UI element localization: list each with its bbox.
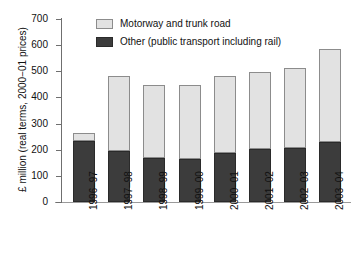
x-axis-tick-label: 1999‒00	[195, 171, 205, 210]
bar-segment-motorway-and-trunk-road	[73, 133, 95, 141]
y-axis-tick	[56, 45, 62, 46]
dark-gray-swatch-icon	[96, 37, 113, 47]
x-axis-tick-label: 2001‒02	[265, 171, 275, 210]
y-axis-tick-label: 0	[14, 197, 48, 207]
y-axis-tick-label: 400	[14, 92, 48, 102]
x-axis-tick-label: 1998‒99	[159, 171, 169, 210]
y-axis-tick	[56, 124, 62, 125]
y-axis-tick	[56, 150, 62, 151]
light-gray-swatch-icon	[96, 19, 113, 29]
bar-segment-motorway-and-trunk-road	[249, 72, 271, 149]
x-axis-tick-label: 2002‒03	[300, 171, 310, 210]
legend-item-other-public-transport-including-rail: Other (public transport including rail)	[96, 34, 281, 49]
bar-segment-motorway-and-trunk-road	[143, 85, 165, 158]
y-axis-tick	[56, 19, 62, 20]
stacked-bar-chart: £ million (real terms, 2000−01 prices) 0…	[0, 0, 356, 274]
x-axis-tick-label: 2000‒01	[230, 171, 240, 210]
bar-segment-motorway-and-trunk-road	[319, 49, 341, 142]
x-axis-tick-label: 1997‒98	[124, 171, 134, 210]
y-axis-tick-label: 100	[14, 171, 48, 181]
legend-label: Other (public transport including rail)	[120, 37, 281, 47]
y-axis-tick-label: 200	[14, 145, 48, 155]
y-axis-tick	[56, 97, 62, 98]
legend-item-motorway-and-trunk-road: Motorway and trunk road	[96, 16, 281, 31]
legend-label: Motorway and trunk road	[120, 19, 231, 29]
y-axis-tick-label: 600	[14, 40, 48, 50]
bar-segment-motorway-and-trunk-road	[214, 76, 236, 153]
y-axis-tick-label: 700	[14, 14, 48, 24]
bar-segment-motorway-and-trunk-road	[284, 68, 306, 148]
y-axis-tick	[56, 71, 62, 72]
chart-legend: Motorway and trunk road Other (public tr…	[96, 16, 281, 52]
x-axis-tick-label: 2003‒04	[335, 171, 345, 210]
bar-segment-motorway-and-trunk-road	[108, 76, 130, 151]
y-axis-tick	[56, 202, 62, 203]
bar-segment-motorway-and-trunk-road	[179, 85, 201, 159]
y-axis-tick	[56, 176, 62, 177]
x-axis-tick-label: 1996‒97	[89, 171, 99, 210]
y-axis-tick-label: 500	[14, 66, 48, 76]
y-axis-tick-label: 300	[14, 119, 48, 129]
